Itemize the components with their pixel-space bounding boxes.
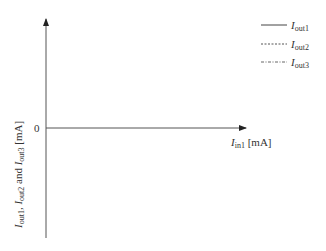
legend: Iout1 Iout2 Iout3	[261, 19, 309, 70]
origin-label: 0	[34, 122, 40, 134]
svg-text:Iout2: Iout2	[290, 38, 309, 52]
diagram-canvas: 0 Iin1 [mA] Iout1, Iout2 and Iout3 [mA] …	[0, 0, 326, 251]
legend-item-iout2: Iout2	[261, 38, 309, 52]
legend-item-iout3: Iout3	[261, 56, 309, 70]
svg-text:Iout3: Iout3	[290, 56, 309, 70]
legend-item-iout1: Iout1	[261, 19, 309, 33]
x-axis-label: Iin1 [mA]	[230, 136, 271, 150]
svg-text:Iout1: Iout1	[290, 19, 309, 33]
y-axis-label: Iout1, Iout2 and Iout3 [mA]	[12, 121, 26, 229]
